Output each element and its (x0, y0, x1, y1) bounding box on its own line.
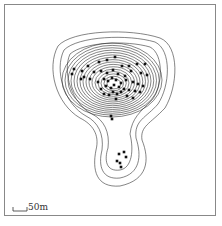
contour-lines (53, 32, 175, 186)
scale-bar-label: 50m (28, 202, 48, 212)
scale-bar-icon (13, 207, 27, 211)
contour-density-map (0, 0, 222, 226)
